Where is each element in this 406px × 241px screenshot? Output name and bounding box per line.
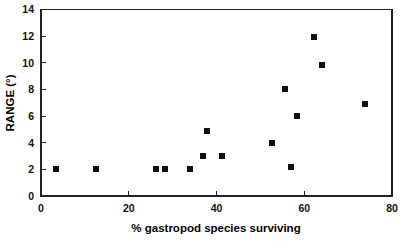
x-tick-label: 60 <box>298 202 310 214</box>
chart-figure: 02468101214 020406080 % gastropod specie… <box>0 0 406 241</box>
data-point <box>319 62 325 68</box>
y-axis-ticks <box>41 10 46 197</box>
data-point <box>362 101 368 107</box>
y-tick-label: 10 <box>22 57 34 69</box>
y-tick-label: 14 <box>22 3 34 15</box>
x-axis-label: % gastropod species surviving <box>131 222 300 234</box>
x-tick-label: 80 <box>386 202 398 214</box>
y-tick-label: 2 <box>28 163 34 175</box>
y-tick-label: 8 <box>28 83 34 95</box>
y-axis-tick-labels: 02468101214 <box>22 3 34 202</box>
data-point <box>200 153 206 159</box>
y-axis-label: RANGE (°) <box>4 74 16 131</box>
x-tick-label: 0 <box>38 202 44 214</box>
data-point <box>153 166 159 172</box>
y-tick-label: 0 <box>28 190 34 202</box>
x-tick-label: 40 <box>211 202 223 214</box>
y-tick-label: 6 <box>28 110 34 122</box>
data-point <box>282 86 288 92</box>
x-axis-tick-labels: 020406080 <box>38 202 398 214</box>
data-point <box>219 153 225 159</box>
scatter-plot: 02468101214 020406080 % gastropod specie… <box>0 0 406 241</box>
data-point <box>53 166 59 172</box>
data-point <box>288 164 294 170</box>
x-tick-label: 20 <box>123 202 135 214</box>
data-point-group <box>53 34 368 172</box>
y-tick-label: 12 <box>22 30 34 42</box>
x-axis-ticks <box>41 191 392 196</box>
data-point <box>294 113 300 119</box>
data-point <box>204 128 210 134</box>
data-point <box>162 166 168 172</box>
data-point <box>93 166 99 172</box>
data-point <box>269 140 275 146</box>
y-tick-label: 4 <box>28 137 34 149</box>
data-point <box>311 34 317 40</box>
data-point <box>187 166 193 172</box>
